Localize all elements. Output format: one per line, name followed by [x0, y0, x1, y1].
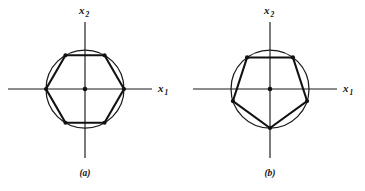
polygon-vertex-dot — [102, 53, 106, 57]
panel-a-y-axis-label-subscript: 2 — [85, 10, 90, 19]
figure-container: x 1 x 2 (a) x 1 x 2 (b) — [0, 0, 365, 191]
panel-b-caption: (b) — [264, 168, 275, 179]
polygon-vertex-dot — [122, 87, 126, 91]
panel-b-x-axis-label: x — [342, 82, 349, 94]
panel-b: x 1 x 2 (b) — [193, 4, 353, 179]
panel-b-y-axis-label: x — [263, 4, 270, 16]
panel-a-origin-dot — [83, 87, 88, 92]
polygon-vertex-dot — [63, 53, 67, 57]
panel-a-x-axis-label-subscript: 1 — [165, 88, 169, 97]
panel-a-caption: (a) — [79, 168, 90, 179]
panel-a-y-axis-label: x — [78, 4, 85, 16]
panel-b-x-axis-label-subscript: 1 — [350, 88, 354, 97]
polygon-vertex-dot — [291, 55, 295, 59]
polygon-vertex-dot — [245, 55, 249, 59]
polygon-vertex-dot — [63, 121, 67, 125]
panel-a-x-axis-label: x — [157, 82, 164, 94]
polygon-vertex-dot — [44, 87, 48, 91]
panel-b-origin-dot — [268, 87, 273, 92]
polygon-vertex-dot — [231, 99, 235, 103]
polygon-vertex-dot — [305, 99, 309, 103]
panel-a: x 1 x 2 (a) — [8, 4, 168, 179]
figure-canvas: x 1 x 2 (a) x 1 x 2 (b) — [0, 0, 365, 191]
polygon-vertex-dot — [268, 126, 272, 130]
panel-b-y-axis-label-subscript: 2 — [270, 10, 275, 19]
polygon-vertex-dot — [102, 121, 106, 125]
